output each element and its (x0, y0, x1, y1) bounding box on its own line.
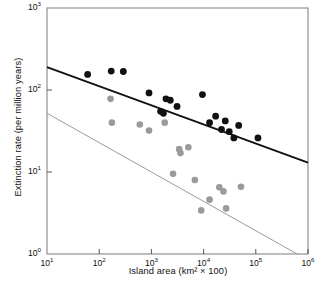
gray-series-point (177, 150, 184, 157)
y-tick-label: 100 (15, 248, 41, 258)
black-series-point (222, 117, 229, 124)
black-series-point (84, 71, 91, 78)
black-series-point (120, 68, 127, 75)
y-axis-ticks (47, 90, 52, 172)
y-axis-title: Extinction rate (per million years) (13, 47, 23, 207)
gray-series-point (206, 196, 213, 203)
x-axis-ticks (99, 249, 308, 254)
gray-series-point (137, 121, 144, 128)
gray-series-point (161, 119, 168, 126)
extinction-rate-vs-island-area-chart: 101102103104105106100101102103 Extinctio… (0, 0, 323, 282)
black-series-point (199, 91, 206, 98)
black-series-point (235, 122, 242, 129)
gray-series-point (170, 171, 177, 178)
black-series-point (212, 113, 219, 120)
black-series-point (160, 110, 167, 117)
gray-series-point (192, 177, 199, 184)
plot-frame (47, 8, 308, 254)
black-series-point (226, 128, 233, 135)
x-axis-title: Island area (km² × 100) (47, 266, 309, 276)
gray-regression-line (47, 113, 297, 254)
black-series-point (146, 90, 153, 97)
gray-series-point (220, 188, 227, 195)
gray-series-point (238, 183, 245, 190)
gray-series-point (146, 127, 153, 134)
black-series-point (206, 119, 213, 126)
black-series-point (174, 103, 181, 110)
gray-series-point (109, 119, 116, 126)
y-tick-label: 103 (15, 2, 41, 12)
gray-series-point (223, 205, 230, 212)
gray-series-point (185, 144, 192, 151)
black-series-point (167, 97, 174, 104)
gray-series-point (198, 207, 205, 214)
black-series-point (108, 68, 115, 75)
trend-lines (47, 67, 308, 254)
black-series-point (230, 135, 237, 142)
black-series-point (218, 126, 225, 133)
plot-canvas (0, 0, 323, 282)
black-series-point (255, 135, 262, 142)
gray-series-point (107, 96, 114, 103)
